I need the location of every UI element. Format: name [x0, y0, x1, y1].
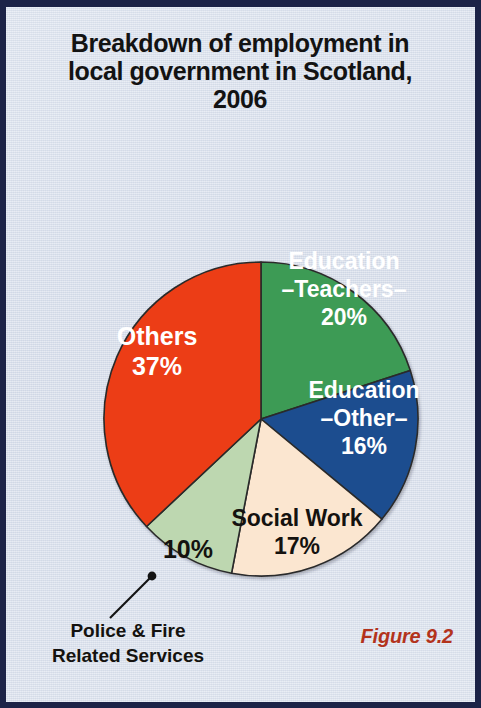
callout-police-fire: Police & Fire Related Services — [52, 572, 204, 666]
slice-label-education-teachers-text-2: –Teachers– — [282, 276, 407, 302]
callout-leader-line — [110, 576, 152, 618]
callout-label-line-1: Police & Fire — [70, 620, 185, 641]
slice-label-education-other-text-1: Education — [308, 377, 419, 403]
pie-chart: Police & Fire Related Services Education… — [6, 7, 475, 701]
slice-label-police-fire-value: 10% — [163, 535, 213, 563]
figure-panel: Breakdown of employment in local governm… — [0, 0, 481, 708]
slice-label-education-other-value: 16% — [341, 433, 387, 459]
slice-label-others-text-1: Others — [117, 322, 198, 350]
slice-label-others-value: 37% — [132, 352, 182, 380]
slice-label-social-work-text-1: Social Work — [231, 505, 362, 531]
slice-label-education-teachers-text-1: Education — [288, 248, 399, 274]
slice-label-social-work-value: 17% — [274, 533, 320, 559]
callout-label-line-2: Related Services — [52, 645, 204, 666]
figure-caption: Figure 9.2 — [361, 625, 453, 648]
slice-label-education-teachers-value: 20% — [321, 304, 367, 330]
slice-label-education-other-text-2: –Other– — [321, 405, 408, 431]
